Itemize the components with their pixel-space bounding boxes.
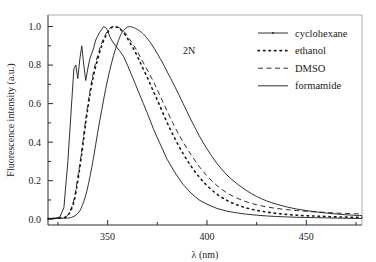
y-tick-label: 1.0 <box>29 21 42 32</box>
legend-label-formamide: formamide <box>295 80 341 91</box>
legend-marker-cyclohexane <box>272 32 274 34</box>
legend-label-cyclohexane: cyclohexane <box>295 28 348 39</box>
x-axis-title: λ (nm) <box>192 249 219 261</box>
chart-canvas: 0.00.20.40.60.81.0350400450λ (nm)Fluores… <box>0 0 376 262</box>
y-tick-label: 0.8 <box>29 59 42 70</box>
fluorescence-spectra-figure: 0.00.20.40.60.81.0350400450λ (nm)Fluores… <box>0 0 376 262</box>
legend-label-dmso: DMSO <box>295 63 326 74</box>
x-tick-label: 400 <box>199 231 214 242</box>
y-tick-label: 0.0 <box>29 214 42 225</box>
legend-label-ethanol: ethanol <box>295 45 326 56</box>
y-tick-label: 0.4 <box>29 137 42 148</box>
plot-annotation: 2N <box>183 45 195 56</box>
x-tick-label: 350 <box>100 231 115 242</box>
y-tick-label: 0.6 <box>29 98 42 109</box>
x-tick-label: 450 <box>299 231 314 242</box>
y-axis-title: Fluorescence intensity (a.u.) <box>5 63 17 176</box>
y-tick-label: 0.2 <box>29 175 42 186</box>
